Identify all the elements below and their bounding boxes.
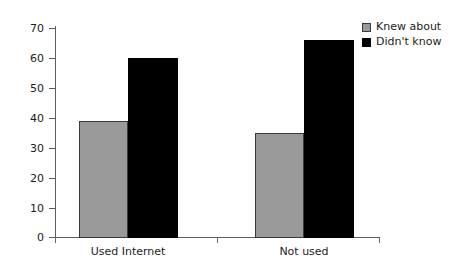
legend-item-didnt-know: Didn't know [362, 35, 441, 49]
bar-used-internet-knew-about [79, 121, 128, 238]
bar-not-used-knew-about [255, 133, 304, 238]
chart-legend: Knew about Didn't know [362, 20, 441, 50]
y-axis-label-0: 0 [37, 232, 44, 243]
bar-chart: 70 60 50 40 30 20 10 0 Used Internet Not… [0, 0, 457, 271]
legend-label-knew-about: Knew about [376, 20, 441, 34]
x-axis-category-used-internet: Used Internet [73, 246, 183, 258]
bar-not-used-didnt-know [304, 40, 354, 238]
legend-swatch-icon-knew-about [362, 23, 371, 32]
y-axis-label-30: 30 [30, 143, 44, 154]
y-axis-label-60: 60 [30, 53, 44, 64]
legend-item-knew-about: Knew about [362, 20, 441, 34]
y-axis-label-50: 50 [30, 83, 44, 94]
bar-used-internet-didnt-know [128, 58, 178, 238]
x-axis-tick-end [379, 238, 380, 243]
y-axis-label-20: 20 [30, 173, 44, 184]
y-axis-label-40: 40 [30, 113, 44, 124]
x-axis-tick-start [55, 238, 56, 243]
legend-label-didnt-know: Didn't know [376, 35, 441, 49]
y-axis-label-10: 10 [30, 203, 44, 214]
y-axis-label-70: 70 [30, 23, 44, 34]
legend-swatch-icon-didnt-know [362, 38, 371, 47]
plot-area [55, 28, 380, 238]
x-axis-category-not-used: Not used [249, 246, 359, 258]
x-axis-tick-middle [217, 238, 218, 243]
